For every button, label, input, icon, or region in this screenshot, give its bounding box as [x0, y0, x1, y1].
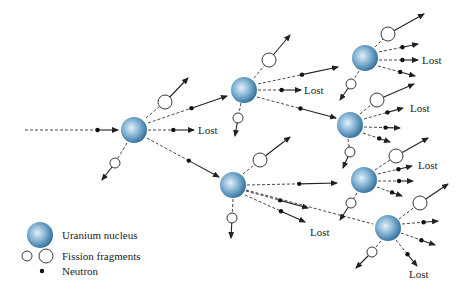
- neutron-path: [401, 233, 435, 245]
- fragment-icon: [413, 196, 427, 210]
- neutron-icon: [383, 125, 387, 129]
- fragment-icon: [227, 213, 237, 223]
- neutron-icon: [400, 45, 404, 49]
- uranium-nucleus-icon: [352, 45, 378, 71]
- neutron-icon: [279, 88, 283, 92]
- legend-uranium-label: Uranium nucleus: [62, 229, 137, 241]
- neutron-path: [258, 67, 338, 84]
- neutron-icon: [397, 179, 401, 183]
- neutron-path: [379, 58, 418, 62]
- neutron-icon: [396, 167, 400, 171]
- lost-label: Lost: [409, 268, 429, 280]
- fission-fragment: [243, 137, 290, 174]
- fragment-icon: [262, 53, 276, 67]
- neutron-icon: [421, 220, 425, 224]
- neutron-path: [378, 166, 412, 174]
- legend-large-fragment-icon: [39, 249, 53, 263]
- uranium-nuclei: [121, 45, 401, 241]
- neutron-path: [396, 240, 417, 266]
- uranium-nucleus-icon: [337, 112, 363, 138]
- fragment-icon: [346, 198, 356, 208]
- fission-fragment: [102, 143, 127, 180]
- fission-fragment: [356, 241, 381, 268]
- lost-label: Lost: [310, 226, 330, 238]
- neutron-path: [364, 125, 400, 129]
- fragment-icon: [370, 93, 384, 107]
- fragment-icon: [110, 158, 120, 168]
- neutron-icon: [189, 106, 193, 110]
- fragment-icon: [346, 79, 356, 89]
- lost-label: Lost: [198, 124, 218, 136]
- neutron-icon: [187, 158, 191, 162]
- neutron-path: [378, 66, 415, 76]
- fragment-icon: [389, 149, 403, 163]
- uranium-nucleus-icon: [351, 167, 377, 193]
- lost-label: Lost: [410, 102, 430, 114]
- neutron-path: [364, 108, 403, 119]
- fission-fragment: [227, 199, 237, 238]
- uranium-nucleus-icon: [121, 117, 147, 143]
- neutron-path: [377, 187, 402, 196]
- neutron-icon: [398, 70, 402, 74]
- uranium-nucleus-icon: [375, 215, 401, 241]
- fragment-icon: [381, 27, 395, 41]
- neutron-icon: [300, 72, 304, 76]
- fragment-icon: [345, 147, 355, 157]
- neutron-icon: [297, 182, 301, 186]
- neutron-path: [247, 182, 337, 186]
- fission-fragment: [340, 71, 359, 100]
- neutron-path: [147, 138, 219, 177]
- neutron-icon: [95, 128, 99, 132]
- fission-fragment: [360, 84, 414, 114]
- fragment-icon: [233, 113, 243, 123]
- neutron-icon: [279, 209, 283, 213]
- lost-label: Lost: [422, 54, 442, 66]
- neutron-icon: [385, 110, 389, 114]
- legend-fragments-label: Fission fragments: [62, 250, 141, 262]
- fission-fragment: [233, 103, 243, 136]
- legend-neutron-label: Neutron: [62, 265, 99, 277]
- fission-fragment: [343, 139, 355, 168]
- legend-uranium-nucleus-icon: [27, 222, 53, 248]
- neutron-icon: [405, 252, 409, 256]
- legend: Uranium nucleus Fission fragments Neutro…: [22, 222, 141, 277]
- uranium-nucleus-icon: [220, 172, 246, 198]
- lost-label: Lost: [418, 159, 438, 171]
- fission-fragment: [399, 184, 448, 219]
- neutron-icon: [400, 58, 404, 62]
- fission-chain-diagram: LostLostLostLostLostLostLost Uranium nuc…: [0, 0, 467, 293]
- neutron-path: [379, 44, 418, 52]
- neutron-icon: [419, 238, 423, 242]
- lost-label: Lost: [304, 84, 324, 96]
- neutron-path: [148, 128, 194, 132]
- fragment-icon: [367, 247, 377, 257]
- legend-neutron-icon: [40, 269, 44, 273]
- fission-fragment: [340, 193, 357, 220]
- uranium-nucleus-icon: [231, 77, 257, 103]
- neutron-path: [378, 179, 413, 183]
- neutron-icon: [171, 128, 175, 132]
- fission-fragment: [254, 35, 290, 78]
- neutron-path: [258, 88, 301, 92]
- legend-small-fragment-icon: [22, 251, 32, 261]
- fragment-icon: [158, 95, 172, 109]
- fission-fragment: [146, 78, 188, 118]
- neutron-path: [402, 220, 438, 224]
- neutron-path: [363, 133, 390, 142]
- neutron-icon: [298, 106, 302, 110]
- neutron-path: [25, 128, 118, 132]
- fragment-icon: [253, 153, 267, 167]
- neutron-icon: [390, 190, 394, 194]
- diagram-canvas: LostLostLostLostLostLostLost Uranium nuc…: [0, 0, 467, 293]
- neutron-path: [257, 97, 336, 118]
- neutron-icon: [377, 136, 381, 140]
- fission-fragment: [375, 14, 424, 47]
